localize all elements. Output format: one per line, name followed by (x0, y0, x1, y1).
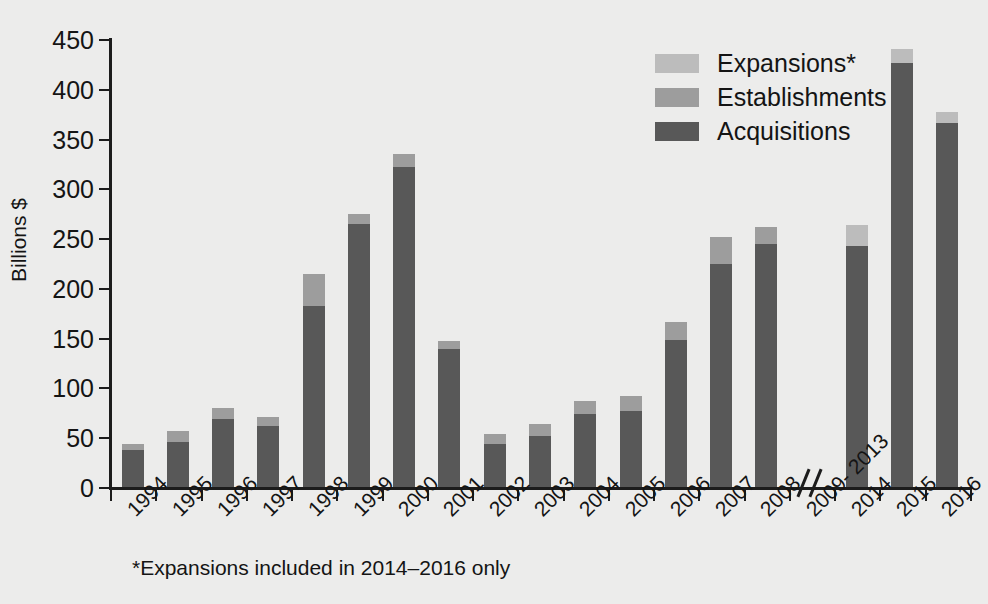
bar-2007 (710, 237, 732, 488)
y-axis-title: Billions $ (7, 198, 31, 282)
y-axis-tick-label: 200 (36, 276, 94, 301)
bar-segment-establishments (122, 444, 144, 450)
y-axis-tick (99, 288, 110, 290)
bar-segment-acquisitions (484, 444, 506, 488)
bar-segment-establishments (710, 237, 732, 264)
y-axis-tick-label: 250 (36, 227, 94, 252)
legend-swatch-icon (655, 122, 699, 141)
bar-2000 (393, 154, 415, 489)
bar-segment-acquisitions (891, 63, 913, 488)
legend-item: Establishments (655, 80, 887, 114)
bar-segment-establishments (212, 408, 234, 419)
bar-2006 (665, 322, 687, 488)
bar-segment-acquisitions (393, 167, 415, 488)
bar-segment-establishments (620, 396, 642, 411)
bar-segment-establishments (574, 401, 596, 414)
chart-legend: Expansions*EstablishmentsAcquisitions (655, 46, 887, 148)
y-axis-tick-label: 350 (36, 127, 94, 152)
bar-segment-acquisitions (122, 450, 144, 488)
bar-2001 (438, 341, 460, 488)
bar-segment-establishments (393, 154, 415, 168)
bar-segment-establishments (303, 274, 325, 306)
legend-item: Expansions* (655, 46, 887, 80)
bar-segment-establishments (529, 424, 551, 436)
y-axis-tick (99, 387, 110, 389)
legend-label: Acquisitions (717, 119, 850, 144)
bar-segment-acquisitions (620, 411, 642, 488)
bar-1997 (257, 417, 279, 488)
bar-1998 (303, 274, 325, 488)
bar-segment-establishments (438, 341, 460, 349)
bar-segment-establishments (484, 434, 506, 444)
bar-segment-acquisitions (574, 414, 596, 488)
y-axis-tick-label: 450 (36, 28, 94, 53)
bar-2003 (529, 424, 551, 488)
chart-root: 050100150200250300350400450 Billions $ 1… (0, 0, 988, 604)
bar-2015 (891, 49, 913, 488)
bar-segment-expansions (936, 112, 958, 123)
bar-segment-expansions (891, 49, 913, 63)
bar-segment-acquisitions (303, 306, 325, 488)
bar-segment-acquisitions (348, 224, 370, 488)
bar-segment-acquisitions (257, 426, 279, 488)
legend-label: Expansions* (717, 51, 856, 76)
bar-segment-acquisitions (755, 244, 777, 488)
bar-segment-acquisitions (936, 123, 958, 488)
bar-segment-acquisitions (529, 436, 551, 488)
bar-2008 (755, 227, 777, 488)
y-axis-tick-label: 400 (36, 77, 94, 102)
x-axis-tick (110, 489, 112, 501)
legend-swatch-icon (655, 54, 699, 73)
bar-segment-establishments (755, 227, 777, 244)
y-axis-tick-label: 50 (36, 426, 94, 451)
bar-segment-acquisitions (665, 340, 687, 488)
y-axis-tick (99, 487, 110, 489)
bar-1994 (122, 444, 144, 488)
bar-segment-establishments (348, 214, 370, 224)
legend-swatch-icon (655, 88, 699, 107)
bar-segment-establishments (665, 322, 687, 340)
y-axis-tick-label: 0 (36, 476, 94, 501)
y-axis-tick (99, 437, 110, 439)
bar-segment-establishments (167, 431, 189, 442)
y-axis-tick (99, 89, 110, 91)
bar-2005 (620, 396, 642, 488)
bar-1996 (212, 408, 234, 488)
y-axis-tick-label: 100 (36, 376, 94, 401)
bar-segment-expansions (846, 225, 868, 246)
bar-segment-establishments (257, 417, 279, 426)
bar-segment-acquisitions (167, 442, 189, 488)
y-axis-tick-label: 300 (36, 177, 94, 202)
bar-segment-acquisitions (710, 264, 732, 488)
bar-1999 (348, 214, 370, 488)
bar-segment-acquisitions (212, 419, 234, 488)
y-axis-tick (99, 188, 110, 190)
y-axis-tick (99, 139, 110, 141)
legend-label: Establishments (717, 85, 887, 110)
y-axis-tick (99, 39, 110, 41)
bar-2016 (936, 112, 958, 488)
chart-footnote: *Expansions included in 2014–2016 only (132, 556, 510, 580)
y-axis-tick (99, 238, 110, 240)
bar-2004 (574, 401, 596, 488)
legend-item: Acquisitions (655, 114, 887, 148)
y-axis-tick-label: 150 (36, 326, 94, 351)
y-axis-tick (99, 338, 110, 340)
bar-2002 (484, 434, 506, 488)
bar-1995 (167, 431, 189, 488)
bar-segment-acquisitions (438, 349, 460, 488)
